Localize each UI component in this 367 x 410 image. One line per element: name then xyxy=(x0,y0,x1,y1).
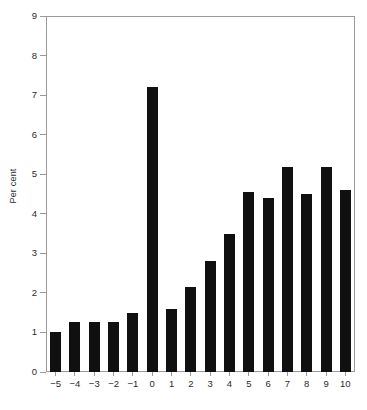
x-axis-tick-mark xyxy=(55,372,56,376)
bar xyxy=(205,261,216,372)
x-axis-tick-mark xyxy=(113,372,114,376)
x-axis-tick-mark xyxy=(132,372,133,376)
bar xyxy=(127,313,138,372)
y-axis-tick-label: 4 xyxy=(32,207,37,220)
x-axis-tick-mark xyxy=(210,372,211,376)
bar xyxy=(50,332,61,372)
bar xyxy=(89,322,100,372)
y-axis-title-label: Per cent xyxy=(8,168,18,203)
x-axis-tick-mark xyxy=(171,372,172,376)
bar xyxy=(282,167,293,372)
bar xyxy=(340,190,351,372)
bar xyxy=(147,87,158,372)
bar xyxy=(263,198,274,372)
x-axis-tick-mark xyxy=(94,372,95,376)
x-axis-tick-mark xyxy=(152,372,153,376)
x-axis-tick-label: 10 xyxy=(333,378,357,389)
bar xyxy=(224,234,235,372)
y-axis-tick-label: 5 xyxy=(32,167,37,180)
y-axis-tick-label: 3 xyxy=(32,246,37,259)
bar xyxy=(185,287,196,372)
y-axis-tick-label: 8 xyxy=(32,49,37,62)
y-axis-tick-label: 6 xyxy=(32,128,37,141)
y-axis-tick-label: 7 xyxy=(32,88,37,101)
y-axis-tick-label: 9 xyxy=(32,9,37,22)
bar-chart: Per cent 0123456789 −5−4−3−2−10123456789… xyxy=(0,0,367,410)
bar xyxy=(166,309,177,372)
x-axis-tick-mark xyxy=(74,372,75,376)
bars-layer xyxy=(46,16,355,372)
y-axis-tick-label: 0 xyxy=(32,365,37,378)
y-axis-tick-label: 1 xyxy=(32,325,37,338)
bar xyxy=(321,167,332,372)
bar xyxy=(108,322,119,372)
x-axis-tick-mark xyxy=(306,372,307,376)
x-axis-tick-mark xyxy=(345,372,346,376)
y-axis-tick-label: 2 xyxy=(32,286,37,299)
x-axis-tick-mark xyxy=(326,372,327,376)
x-axis-tick-mark xyxy=(287,372,288,376)
y-axis-title: Per cent xyxy=(0,0,26,372)
x-axis-tick-mark xyxy=(190,372,191,376)
bar xyxy=(243,192,254,372)
bar xyxy=(69,322,80,372)
x-axis-tick-mark xyxy=(229,372,230,376)
x-axis-tick-mark xyxy=(248,372,249,376)
x-axis-tick-mark xyxy=(268,372,269,376)
bar xyxy=(301,194,312,372)
